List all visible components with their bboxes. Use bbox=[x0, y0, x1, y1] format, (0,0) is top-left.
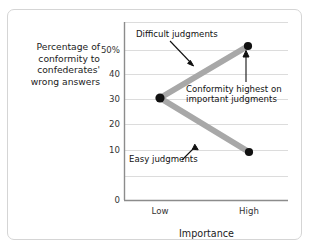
data-point-low-shared bbox=[155, 93, 164, 102]
annotation-conformity-line-1: Conformity highest on bbox=[186, 84, 282, 94]
data-point-difficult-high bbox=[244, 42, 252, 50]
plot-background bbox=[124, 22, 288, 200]
annotation-difficult-judgments: Difficult judgments bbox=[136, 29, 218, 39]
annotation-easy-judgments: Easy judgments bbox=[129, 154, 198, 164]
y-axis-title-line-4: wrong answers bbox=[18, 76, 100, 88]
y-tick-label-0: 0 bbox=[96, 195, 120, 205]
x-tick-label-low: Low bbox=[140, 206, 180, 216]
y-tick-label-30: 30 bbox=[96, 94, 120, 104]
annotation-conformity-line-2: important judgments bbox=[186, 94, 282, 104]
y-tick-label-50: 50% bbox=[96, 45, 120, 55]
x-axis-title: Importance bbox=[124, 228, 289, 239]
y-tick-label-20: 20 bbox=[96, 119, 120, 129]
data-point-easy-high bbox=[245, 148, 253, 156]
y-axis-title-line-1: Percentage of bbox=[18, 41, 100, 53]
y-tick-label-10: 10 bbox=[96, 145, 120, 155]
y-axis-title: Percentage of conformity to confederates… bbox=[18, 41, 100, 87]
y-axis-title-line-2: conformity to bbox=[18, 53, 100, 65]
annotation-conformity-highest: Conformity highest on important judgment… bbox=[186, 84, 282, 104]
y-tick-label-40: 40 bbox=[96, 69, 120, 79]
chart-figure: Percentage of conformity to confederates… bbox=[0, 0, 311, 251]
y-axis-title-line-3: confederates' bbox=[18, 64, 100, 76]
x-tick-label-high: High bbox=[229, 206, 269, 216]
